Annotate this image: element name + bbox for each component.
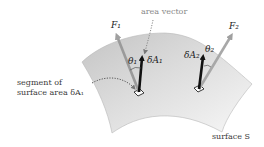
force-f2-label: F₂ — [229, 22, 239, 31]
theta2-label: θ₂ — [205, 45, 214, 54]
diagram-canvas — [0, 0, 264, 147]
area-da1-label: δA₁ — [147, 56, 163, 65]
surface-s-label: surface S — [212, 133, 250, 141]
surface-flux-diagram: area vector F₁ F₂ θ₁ δA₁ θ₂ δA₂ segment … — [0, 0, 264, 147]
segment-label-line1: segment of — [17, 79, 62, 87]
area-vector-label: area vector — [141, 8, 187, 16]
surface-s — [82, 33, 252, 133]
force-f1-label: F₁ — [111, 21, 121, 30]
theta1-label: θ₁ — [128, 57, 137, 66]
segment-label-line2: surface area δA₁ — [17, 89, 84, 97]
area-da2-label: δA₂ — [184, 51, 200, 60]
